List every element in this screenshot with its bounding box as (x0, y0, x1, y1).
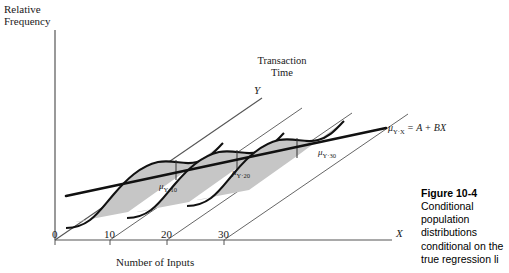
x-axis-label: Number of Inputs (116, 256, 194, 268)
x-tick-label-0: 0 (52, 228, 58, 240)
mu-label-x10: μY·10 (159, 181, 177, 193)
depth-axis-title: Transaction Time (243, 55, 321, 79)
mu-label-x30: μY·30 (318, 147, 336, 159)
regression-equation: μY·X = A + BX (388, 122, 446, 135)
figure-number: Figure 10-4 (421, 187, 509, 200)
mu-label-x20: μY·20 (232, 167, 250, 179)
x-tick-label-30: 30 (218, 228, 229, 240)
depth-axis-symbol: Y (254, 84, 260, 96)
x-tick-label-20: 20 (161, 228, 172, 240)
figure-caption: Figure 10-4 Conditional population distr… (421, 187, 509, 266)
x-tick-label-10: 10 (104, 228, 115, 240)
y-axis-label: Relative Frequency (4, 3, 50, 28)
figure-caption-text: Conditional population distributions con… (421, 200, 509, 266)
figure-10-4: Relative Frequency Transaction Time Y X … (0, 0, 509, 273)
x-axis-symbol: X (396, 227, 403, 239)
